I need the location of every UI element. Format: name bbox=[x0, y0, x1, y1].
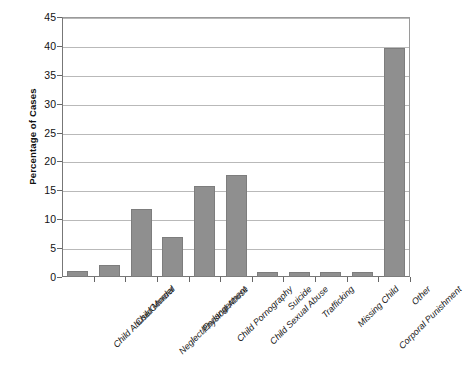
y-axis-tick-label: 45 bbox=[16, 11, 56, 23]
x-axis-tick-mark bbox=[125, 277, 126, 282]
x-axis-tick-mark bbox=[410, 277, 411, 282]
x-axis-tick-label: Child Murder bbox=[134, 284, 178, 328]
bar bbox=[320, 272, 341, 277]
bar bbox=[194, 186, 215, 277]
bar bbox=[99, 265, 120, 277]
bars-layer bbox=[62, 17, 410, 277]
bar bbox=[67, 271, 88, 277]
x-axis-tick-label: Other bbox=[410, 284, 433, 307]
x-axis-tick-mark bbox=[378, 277, 379, 282]
bar bbox=[352, 272, 373, 277]
bar bbox=[226, 175, 247, 277]
y-axis-tick-label: 10 bbox=[16, 213, 56, 225]
x-axis-tick-label: Child Sexual Abuse bbox=[268, 284, 330, 346]
x-axis-tick-label: Child Pornography bbox=[235, 284, 295, 344]
x-axis-tick-mark bbox=[189, 277, 190, 282]
x-axis-tick-mark bbox=[252, 277, 253, 282]
y-axis-tick-label: 35 bbox=[16, 69, 56, 81]
x-axis-tick-label: Child Abuse/General bbox=[111, 284, 177, 350]
x-axis-tick-mark bbox=[347, 277, 348, 282]
y-axis-tick-label: 15 bbox=[16, 184, 56, 196]
x-axis-tick-label: Suicide bbox=[285, 284, 313, 312]
y-axis-tick-mark bbox=[57, 277, 62, 278]
x-axis-tick-mark bbox=[157, 277, 158, 282]
x-axis-tick-label: Physical Abuse bbox=[200, 284, 250, 334]
x-axis-tick-label: Corporal Punishment bbox=[396, 284, 463, 351]
bar bbox=[384, 48, 405, 277]
x-axis-tick-label: Neglect/Endangerment bbox=[177, 284, 249, 356]
bar bbox=[131, 209, 152, 277]
y-axis-tick-label: 20 bbox=[16, 155, 56, 167]
x-axis-tick-mark bbox=[315, 277, 316, 282]
y-axis-tick-label: 40 bbox=[16, 40, 56, 52]
y-axis-tick-label: 30 bbox=[16, 98, 56, 110]
x-axis-tick-mark bbox=[283, 277, 284, 282]
bar bbox=[162, 237, 183, 277]
x-axis-tick-label: Trafficking bbox=[320, 284, 356, 320]
y-axis-tick-label: 0 bbox=[16, 271, 56, 283]
x-axis-tick-mark bbox=[94, 277, 95, 282]
x-axis-tick-mark bbox=[220, 277, 221, 282]
y-axis-tick-label: 25 bbox=[16, 127, 56, 139]
x-axis-tick-label: Missing Child bbox=[356, 284, 401, 329]
bar bbox=[257, 272, 278, 277]
y-axis-tick-label: 5 bbox=[16, 242, 56, 254]
bar bbox=[289, 272, 310, 277]
